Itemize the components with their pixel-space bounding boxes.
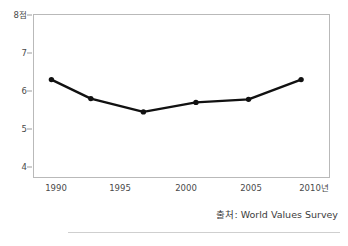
bottom-divider (68, 232, 340, 233)
data-point-1990 (49, 77, 54, 82)
data-point-2005 (246, 97, 251, 102)
data-point-1993 (88, 96, 93, 101)
series-line (51, 80, 301, 112)
data-point-1997 (141, 109, 146, 114)
chart-figure: 8점 7 6 5 4 1990 1995 2000 2005 2010년 출처:… (0, 0, 348, 246)
data-point-2001 (193, 100, 198, 105)
source-note: 출처: World Values Survey (216, 210, 338, 220)
data-point-2009 (298, 77, 303, 82)
